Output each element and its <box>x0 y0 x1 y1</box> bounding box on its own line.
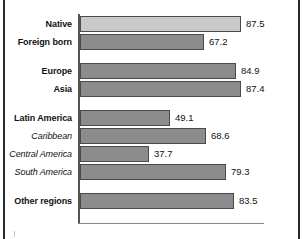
bar-value-label: 37.7 <box>154 145 173 163</box>
bar-category-label: Latin America <box>0 109 72 127</box>
value-axis-baseline <box>78 223 264 224</box>
bar <box>80 128 206 144</box>
bar-value-label: 79.3 <box>231 163 250 181</box>
bar-value-label: 83.5 <box>239 192 258 210</box>
bar-category-label: Native <box>0 15 72 33</box>
bar-category-label: Europe <box>0 62 72 80</box>
bar-category-label: Foreign born <box>0 33 72 51</box>
bar-category-label: Caribbean <box>0 127 72 145</box>
bar <box>80 16 241 32</box>
bar <box>80 63 236 79</box>
bar <box>80 164 226 180</box>
bar <box>80 81 241 97</box>
bar-value-label: 67.2 <box>209 33 228 51</box>
bar-value-label: 84.9 <box>241 62 260 80</box>
bar <box>80 34 204 50</box>
bar <box>80 110 170 126</box>
bar-chart: Native87.5Foreign born67.2Europe84.9Asia… <box>0 0 304 239</box>
bar-value-label: 49.1 <box>175 109 194 127</box>
bar <box>80 193 234 209</box>
plot-area: Native87.5Foreign born67.2Europe84.9Asia… <box>0 0 304 239</box>
bar <box>80 146 149 162</box>
bar-category-label: South America <box>0 163 72 181</box>
bar-value-label: 68.6 <box>211 127 230 145</box>
bar-category-label: Asia <box>0 80 72 98</box>
bar-category-label: Other regions <box>0 192 72 210</box>
bar-value-label: 87.4 <box>246 80 265 98</box>
page-artifact-mark <box>14 231 15 237</box>
bar-category-label: Central America <box>0 145 72 163</box>
bar-value-label: 87.5 <box>246 15 265 33</box>
